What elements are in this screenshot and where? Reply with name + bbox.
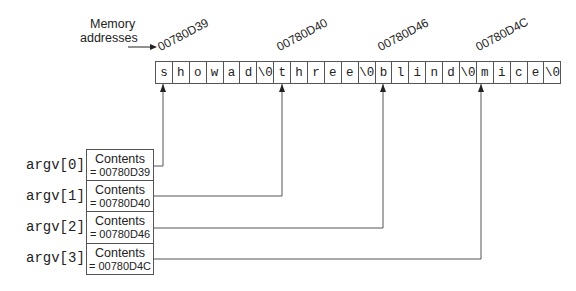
argv-contents-label: Contents bbox=[87, 246, 153, 260]
argv-contents-value: = 00780D40 bbox=[87, 197, 153, 210]
argv-box-0: Contents = 00780D39 bbox=[86, 149, 154, 181]
argv-contents-value: = 00780D4C bbox=[87, 260, 153, 273]
argv-contents-label: Contents bbox=[87, 183, 153, 197]
pointer-line-argv3 bbox=[154, 84, 481, 259]
argv-label-1: argv[1] bbox=[26, 188, 85, 204]
argv-contents-value: = 00780D39 bbox=[87, 166, 153, 179]
argv-contents-value: = 00780D46 bbox=[87, 228, 153, 241]
argv-label-2: argv[2] bbox=[26, 219, 85, 235]
argv-contents-label: Contents bbox=[87, 214, 153, 228]
pointer-line-argv2 bbox=[154, 84, 383, 228]
pointer-line-argv1 bbox=[154, 84, 282, 196]
argv-box-2: Contents = 00780D46 bbox=[86, 211, 154, 244]
argv-label-0: argv[0] bbox=[26, 157, 85, 173]
pointer-line-argv0 bbox=[154, 84, 163, 166]
argv-box-1: Contents = 00780D40 bbox=[86, 180, 154, 212]
memory-label-arrow bbox=[128, 44, 157, 50]
argv-label-3: argv[3] bbox=[26, 250, 85, 266]
argv-contents-label: Contents bbox=[87, 152, 153, 166]
argv-box-3: Contents = 00780D4C bbox=[86, 243, 154, 275]
